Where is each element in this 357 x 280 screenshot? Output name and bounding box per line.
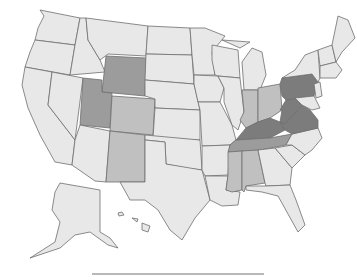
state-wy[interactable] — [102, 56, 146, 96]
us-choropleth-map — [0, 0, 357, 280]
state-ar[interactable] — [202, 145, 230, 176]
state-nj[interactable] — [314, 82, 322, 98]
state-ks[interactable] — [153, 108, 200, 140]
state-oh[interactable] — [258, 84, 282, 122]
state-me[interactable] — [332, 16, 355, 62]
state-wi[interactable] — [212, 45, 240, 78]
state-ms[interactable] — [226, 151, 242, 192]
state-nd[interactable] — [146, 26, 192, 55]
state-az[interactable] — [72, 125, 110, 182]
state-nm[interactable] — [106, 131, 145, 182]
state-ak[interactable] — [30, 183, 118, 258]
state-fl[interactable] — [246, 185, 305, 232]
state-sd[interactable] — [145, 54, 194, 84]
state-wa[interactable] — [35, 10, 80, 45]
legend-bar — [92, 273, 264, 275]
state-co[interactable] — [110, 96, 155, 135]
state-hi[interactable] — [118, 212, 150, 232]
